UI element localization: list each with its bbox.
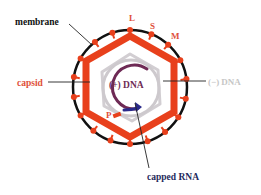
- surface-protein-dot: [71, 74, 77, 80]
- polymerase-label: P: [106, 110, 112, 120]
- surface-protein-dot: [78, 56, 84, 62]
- surface-protein-dot: [92, 39, 98, 45]
- protein-m-label: M: [171, 31, 180, 41]
- surface-protein-dot: [165, 42, 171, 48]
- surface-protein-dot: [145, 138, 151, 144]
- protein-l-label: L: [129, 13, 135, 23]
- plus-dna-label: (+) DNA: [109, 80, 144, 91]
- surface-protein-dot: [109, 30, 115, 36]
- surface-protein-dot: [183, 96, 189, 102]
- minus-dna-label: (−) DNA: [208, 77, 241, 87]
- surface-protein-dot: [127, 141, 133, 147]
- surface-protein-dot: [175, 114, 181, 120]
- membrane-leader-line: [69, 24, 92, 45]
- surface-protein-dot: [148, 31, 154, 37]
- surface-protein-dot: [78, 113, 84, 119]
- capsid-label: capsid: [17, 78, 44, 88]
- surface-protein-dot: [177, 57, 183, 63]
- membrane-label: membrane: [15, 17, 59, 27]
- surface-protein-dot: [162, 129, 168, 135]
- capped-rna-label: capped RNA: [147, 172, 199, 182]
- surface-protein-dot: [71, 94, 77, 100]
- surface-protein-dot: [90, 128, 96, 134]
- surface-protein-dot: [108, 138, 114, 144]
- hbv-diagram: membrane capsid L S M (−) DNA (+) DNA P …: [0, 0, 261, 195]
- surface-protein-dot: [127, 27, 133, 33]
- protein-s-label: S: [150, 21, 155, 31]
